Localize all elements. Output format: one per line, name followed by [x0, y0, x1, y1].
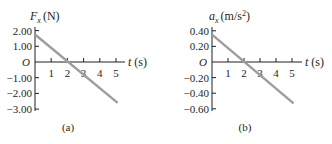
- x-tick-label: 4: [273, 67, 279, 79]
- x-tick-label: 5: [289, 67, 295, 79]
- y-axis-title: ax(m/s2): [209, 9, 250, 25]
- x-tick-label: 1: [225, 67, 231, 79]
- origin-label: O: [22, 56, 30, 68]
- x-tick-label: 5: [113, 67, 119, 79]
- x-tick-label: 1: [48, 67, 54, 79]
- panel-caption: (a): [62, 121, 75, 134]
- y-tick-label: −0.40: [184, 87, 210, 99]
- y-tick-label: −1.00: [7, 72, 33, 84]
- x-tick-label: 4: [97, 67, 103, 79]
- y-axis-title: Fx(N): [29, 9, 60, 25]
- y-tick-label: −2.00: [7, 87, 33, 99]
- figure: 2.001.00−1.00−2.00−3.00O12345t(s)Fx(N)(a…: [0, 0, 332, 144]
- chart-panel-b: 0.400.20−0.20−0.40−0.60O12345t(s)ax(m/s2…: [184, 9, 324, 134]
- y-tick-label: −0.20: [184, 72, 210, 84]
- x-axis-title: t(s): [305, 55, 324, 69]
- panel-caption: (b): [239, 121, 252, 134]
- y-tick-label: 1.00: [13, 40, 33, 52]
- x-tick-label: 2: [65, 67, 71, 79]
- data-line: [35, 35, 118, 103]
- chart-panel-a: 2.001.00−1.00−2.00−3.00O12345t(s)Fx(N)(a…: [7, 9, 147, 134]
- x-tick-label: 2: [241, 67, 247, 79]
- y-tick-label: −3.00: [7, 103, 33, 115]
- origin-label: O: [199, 56, 207, 68]
- y-tick-label: 0.20: [190, 40, 210, 52]
- y-tick-label: 0.40: [190, 25, 210, 37]
- y-tick-label: −0.60: [184, 103, 210, 115]
- y-tick-label: 2.00: [13, 25, 33, 37]
- data-line: [212, 35, 294, 104]
- x-axis-title: t(s): [128, 55, 147, 69]
